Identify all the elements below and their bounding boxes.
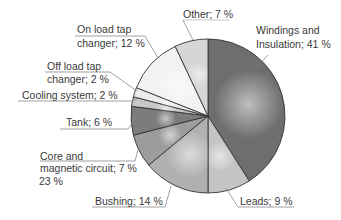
label-bushing: Bushing; 14 %: [95, 195, 163, 207]
label-tank: Tank; 6 %: [66, 116, 112, 128]
label-windings-line2: Insulation; 41 %: [256, 38, 331, 50]
label-core-line3: 23 %: [39, 175, 63, 187]
label-windings-line1: Windings and: [256, 24, 320, 36]
label-other: Other; 7 %: [183, 8, 233, 20]
label-offload-line2: changer; 2 %: [47, 73, 109, 85]
label-core-line2: magnetic circuit; 7 %: [40, 162, 137, 174]
label-offload-line1: Off load tap: [47, 60, 101, 72]
label-leads: Leads; 9 %: [240, 195, 293, 207]
slice-highlight: [214, 70, 283, 139]
label-cooling: Cooling system; 2 %: [22, 89, 118, 101]
label-core-line1: Core and: [40, 150, 83, 162]
label-onload-line2: changer; 12 %: [77, 37, 145, 49]
label-onload-line1: On load tap: [77, 23, 131, 35]
leader-other-pointer: [183, 20, 193, 40]
